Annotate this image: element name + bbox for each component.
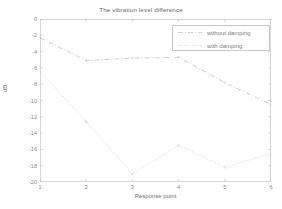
y-tick-label: -4 [32, 49, 37, 55]
legend-sample-line-without-damping [177, 28, 203, 37]
y-tick-label: -6 [32, 65, 37, 71]
y-tick-label: -16 [29, 146, 37, 152]
x-tick-label: 4 [177, 184, 180, 190]
y-tick-label: -12 [29, 114, 37, 120]
data-point [178, 144, 180, 146]
series-layer [40, 37, 271, 175]
x-tick-label: 3 [131, 184, 134, 190]
chart-figure: The vibration level difference dB 0-2-4-… [0, 0, 282, 209]
y-axis-label: dB [2, 85, 8, 92]
legend-label-without-damping: without damping [207, 30, 251, 36]
x-tick-label: 5 [223, 184, 226, 190]
x-tick-label: 1 [38, 184, 41, 190]
y-tick-label: -10 [29, 98, 37, 104]
legend-label-with-damping: with damping [207, 43, 242, 49]
x-tick-label: 2 [85, 184, 88, 190]
y-axis-tick-labels: 0-2-4-6-8-10-12-14-16-18-20 [16, 19, 37, 182]
y-tick-label: -18 [29, 163, 37, 169]
chart-title: The vibration level difference [0, 6, 282, 13]
legend-item-with-damping[interactable]: with damping [173, 39, 271, 52]
x-axis-label: Response point [40, 193, 271, 199]
data-point [224, 82, 226, 84]
legend-sample-line-with-damping [177, 41, 203, 50]
data-point [85, 121, 87, 123]
y-tick-label: -8 [32, 81, 37, 87]
legend-item-without-damping[interactable]: without damping [173, 26, 271, 39]
y-tick-label: -20 [29, 179, 37, 185]
y-tick-label: 0 [34, 16, 37, 22]
series-line-with-damping [40, 71, 271, 174]
x-tick-label: 6 [269, 184, 272, 190]
y-tick-label: -2 [32, 32, 37, 38]
legend[interactable]: without damping with damping [172, 25, 270, 51]
y-tick-label: -14 [29, 130, 37, 136]
